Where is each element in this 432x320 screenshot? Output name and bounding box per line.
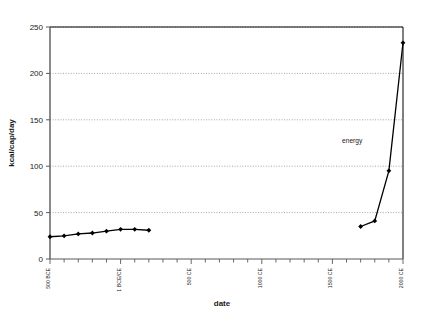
x-tick-label: 500 BCE <box>45 267 51 288</box>
x-tick-label: 1000 CE <box>257 267 263 288</box>
x-tick-label: 1 BCE/CE <box>116 267 122 291</box>
annotation-layer: energy <box>342 137 363 145</box>
y-tick-label: 0 <box>39 255 44 264</box>
y-axis-title: kcal/cap/day <box>7 119 16 167</box>
x-tick-label: 1500 CE <box>327 267 333 288</box>
line-chart: 050100150200250 500 BCE1 BCE/CE500 CE100… <box>0 0 432 320</box>
x-axis-title: date <box>214 299 231 308</box>
y-tick-label: 150 <box>30 116 44 125</box>
y-tick-label: 50 <box>34 209 43 218</box>
y-tick-label: 200 <box>30 69 44 78</box>
x-tick-label: 500 CE <box>186 267 192 285</box>
chart-container: 050100150200250 500 BCE1 BCE/CE500 CE100… <box>0 0 432 320</box>
x-tick-label: 2000 CE <box>398 267 404 288</box>
series-annotation-label: energy <box>342 137 363 145</box>
y-tick-label: 250 <box>30 23 44 32</box>
y-tick-label: 100 <box>30 162 44 171</box>
